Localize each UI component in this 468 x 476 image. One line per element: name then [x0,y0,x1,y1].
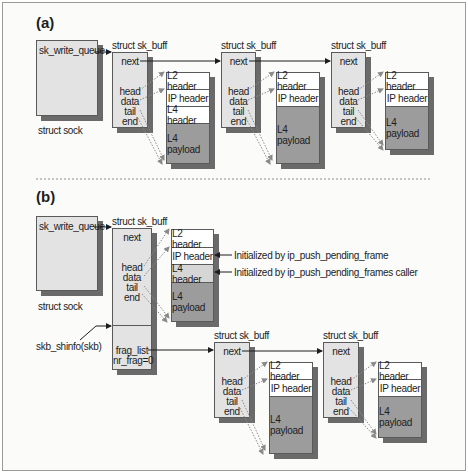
connector-arrows [0,0,468,476]
